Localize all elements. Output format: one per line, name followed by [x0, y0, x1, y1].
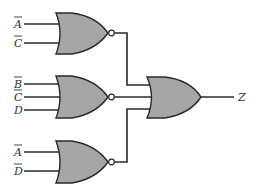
nor-gate-1 [56, 13, 108, 54]
label-g3-d: D [13, 165, 23, 178]
label-g2-b: B [13, 78, 22, 91]
inversion-bubble-2 [109, 94, 115, 100]
inversion-bubble-3 [109, 159, 115, 165]
label-g2-c: C [14, 91, 23, 104]
wire-nor3-to-or [114, 109, 152, 162]
nor-gate-3 [56, 141, 108, 183]
or-gate-output [147, 77, 201, 118]
label-g1-c: C [14, 37, 23, 50]
label-g1-a: A [13, 18, 22, 31]
output-label-z: Z [237, 91, 246, 104]
label-g3-a: A [13, 146, 22, 159]
label-g2-d: D [13, 104, 23, 117]
inversion-bubble-1 [109, 30, 115, 36]
logic-circuit-diagram: A C B C D A D Z [0, 0, 260, 193]
nor-gate-2 [56, 76, 108, 118]
